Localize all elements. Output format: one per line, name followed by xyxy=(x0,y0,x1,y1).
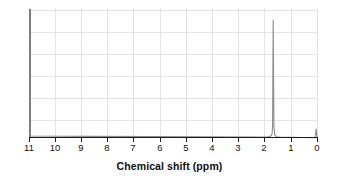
x-axis-line xyxy=(29,137,318,138)
nmr-spectrum-figure: 11 10 9 8 7 6 5 4 3 2 1 0 Chemical shift… xyxy=(0,0,339,181)
x-tick-label-7: 7 xyxy=(121,142,145,154)
x-axis-label: Chemical shift (ppm) xyxy=(0,160,339,172)
x-tick-label-0: 0 xyxy=(305,142,329,154)
x-tick-label-4: 4 xyxy=(200,142,224,154)
x-tick-label-2: 2 xyxy=(252,142,276,154)
x-tick-label-3: 3 xyxy=(226,142,250,154)
x-tick-label-1: 1 xyxy=(279,142,303,154)
x-tick-label-9: 9 xyxy=(69,142,93,154)
spectrum-trace xyxy=(29,8,318,139)
x-tick-label-8: 8 xyxy=(95,142,119,154)
x-tick-label-10: 10 xyxy=(43,142,67,154)
x-tick-label-11: 11 xyxy=(17,142,41,154)
spectrum-path xyxy=(29,8,318,139)
x-tick-label-6: 6 xyxy=(148,142,172,154)
x-tick-label-5: 5 xyxy=(174,142,198,154)
